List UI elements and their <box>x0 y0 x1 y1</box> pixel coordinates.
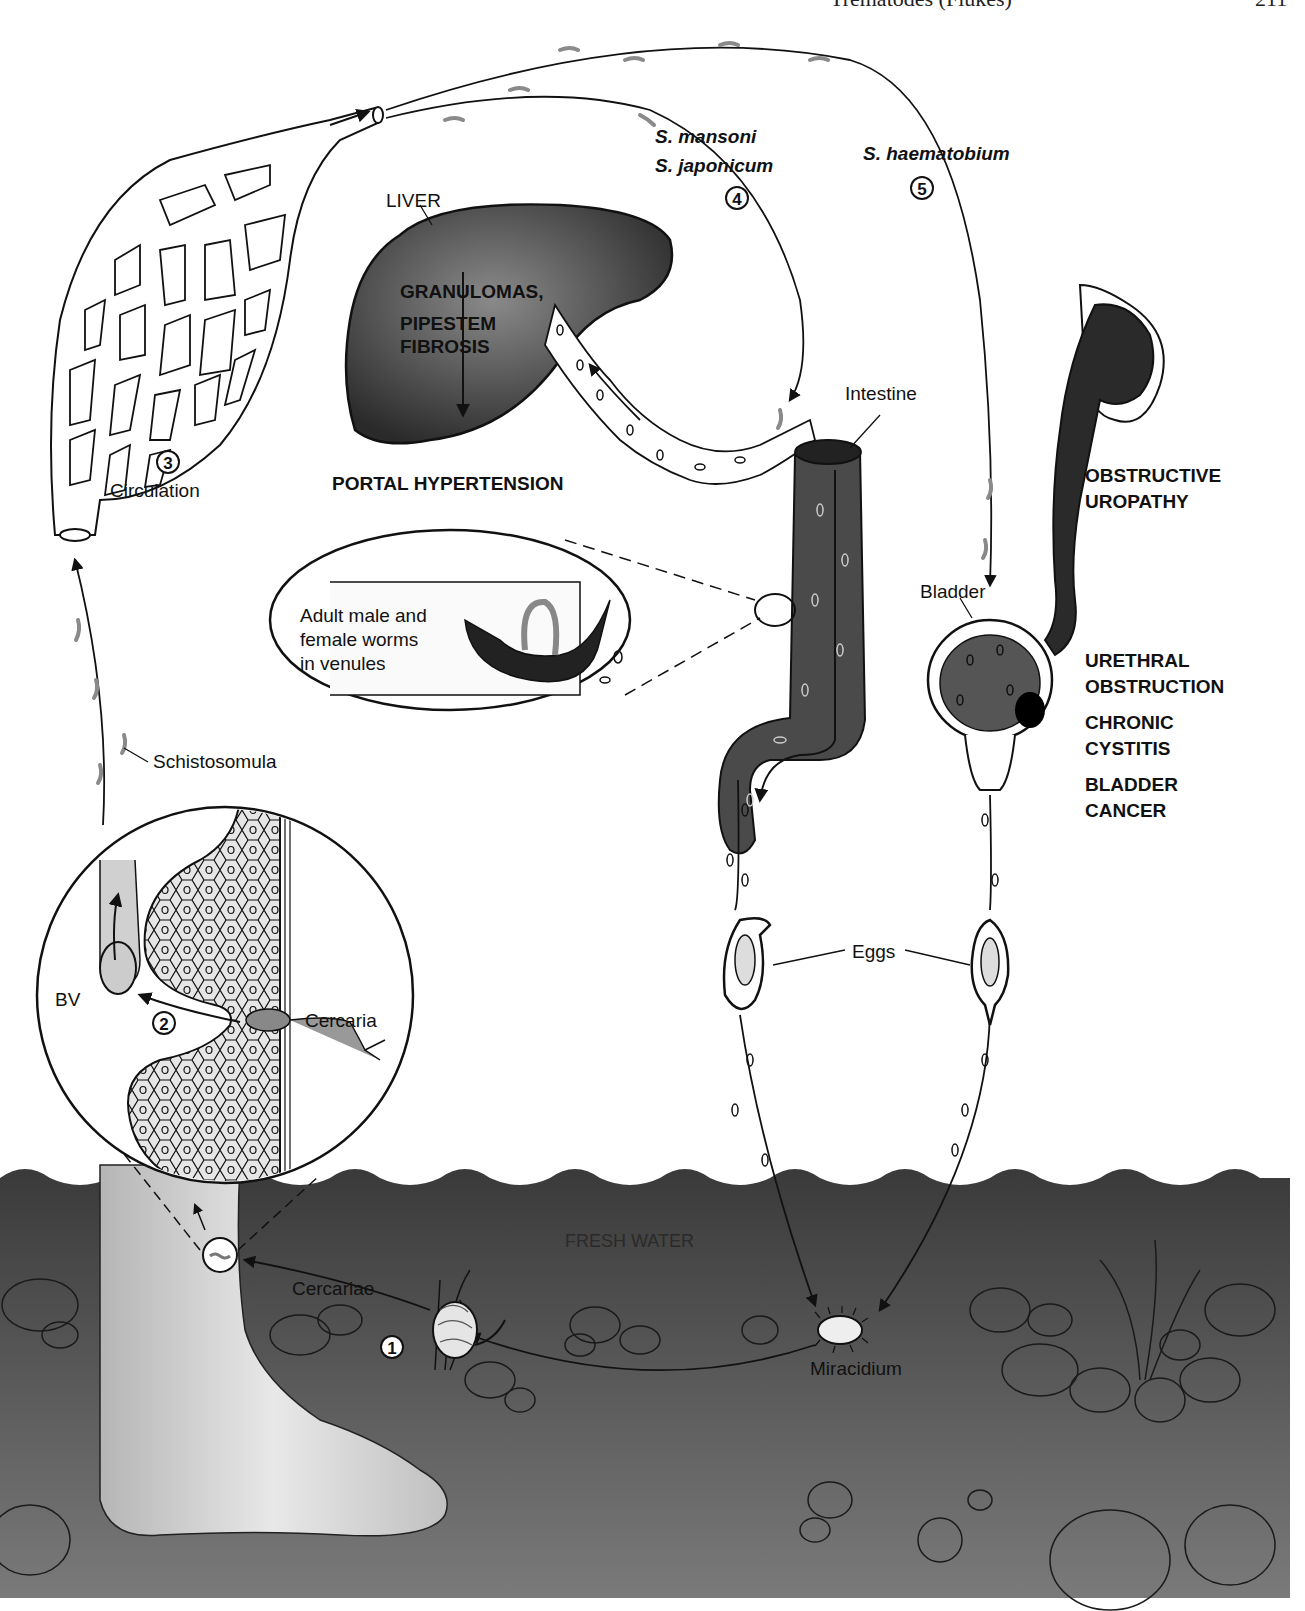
label-pathology-4b: CANCER <box>1085 800 1167 821</box>
step-1-marker: 1 <box>381 1336 403 1358</box>
step-5-marker: 5 <box>911 177 933 199</box>
label-pathology-2b: OBSTRUCTION <box>1085 676 1224 697</box>
label-s-haematobium: S. haematobium <box>863 143 1010 164</box>
svg-text:5: 5 <box>917 180 926 199</box>
label-pathology-3a: CHRONIC <box>1085 712 1174 733</box>
label-fresh-water: FRESH WATER <box>565 1231 694 1251</box>
label-cercariae: Cercariae <box>292 1278 374 1299</box>
label-cercaria: Cercaria <box>305 1010 377 1031</box>
egg-s-mansoni <box>724 918 770 1009</box>
label-eggs: Eggs <box>852 941 895 962</box>
egg-s-haematobium <box>972 920 1008 1025</box>
label-s-japonicum: S. japonicum <box>655 155 773 176</box>
label-portal-hypertension: PORTAL HYPERTENSION <box>332 473 564 494</box>
label-pathology-4a: BLADDER <box>1085 774 1178 795</box>
schistosoma-life-cycle-diagram: 1 2 3 4 5 S. mansoni S. japonicum S. hae… <box>0 0 1305 1611</box>
label-s-mansoni: S. mansoni <box>655 126 757 147</box>
bladder <box>928 598 1052 790</box>
svg-text:4: 4 <box>732 190 742 209</box>
svg-text:3: 3 <box>163 454 172 473</box>
label-fibrosis: FIBROSIS <box>400 336 490 357</box>
label-bladder: Bladder <box>920 581 986 602</box>
step-4-marker: 4 <box>726 187 748 209</box>
step-3-marker: 3 <box>157 451 179 473</box>
label-pipestem: PIPESTEM <box>400 313 496 334</box>
step-2-marker: 2 <box>153 1012 175 1034</box>
label-granulomas: GRANULOMAS, <box>400 281 544 302</box>
label-worms-1: Adult male and <box>300 605 427 626</box>
label-schistosomula: Schistosomula <box>153 751 277 772</box>
schistosomula-pathway <box>75 560 148 825</box>
label-bv: BV <box>55 989 81 1010</box>
vessel-opening <box>60 529 90 541</box>
svg-text:2: 2 <box>159 1015 168 1034</box>
skin-magnified-view <box>37 800 413 1190</box>
label-pathology-1b: UROPATHY <box>1085 491 1189 512</box>
label-miracidium: Miracidium <box>810 1358 902 1379</box>
label-intestine: Intestine <box>845 383 917 404</box>
label-liver: LIVER <box>386 190 441 211</box>
portal-venous-system <box>545 305 815 484</box>
svg-text:1: 1 <box>387 1339 396 1358</box>
label-circulation: Circulation <box>110 480 200 501</box>
label-pathology-1a: OBSTRUCTIVE <box>1085 465 1221 486</box>
label-pathology-3b: CYSTITIS <box>1085 738 1171 759</box>
label-worms-2: female worms <box>300 629 418 650</box>
label-worms-3: in venules <box>300 653 386 674</box>
label-pathology-2a: URETHRAL <box>1085 650 1190 671</box>
